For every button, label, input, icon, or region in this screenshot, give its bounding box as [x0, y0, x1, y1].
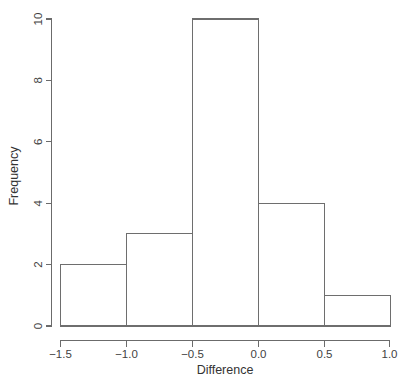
x-axis-tick-label--0.5: −0.5 [181, 348, 204, 360]
x-axis-tick-label-0.5: 0.5 [317, 348, 333, 360]
x-axis-tick-label-0.0: 0.0 [251, 348, 267, 360]
x-axis-title: Difference [197, 363, 254, 377]
y-axis-tick-label-8: 8 [32, 77, 44, 83]
histogram-bar [61, 265, 127, 326]
x-axis-tick-label--1.5: −1.5 [49, 348, 72, 360]
histogram-bar [193, 19, 259, 326]
histogram-bar [127, 234, 193, 326]
histogram-chart: 0 2 4 6 8 10 Frequency −1.5 −1.0 −0.5 0.… [0, 0, 411, 382]
x-axis-tick-label-1.0: 1.0 [382, 348, 398, 360]
y-axis-tick-label-10: 10 [32, 13, 44, 26]
y-axis-tick-label-0: 0 [32, 323, 44, 329]
x-axis-tick-label--1.0: −1.0 [115, 348, 138, 360]
y-axis-title: Frequency [7, 146, 21, 206]
histogram-bar [259, 203, 325, 326]
y-axis-tick-label-4: 4 [32, 199, 44, 206]
histogram-bar [325, 295, 391, 326]
y-axis-tick-label-6: 6 [32, 139, 44, 145]
chart-canvas: 0 2 4 6 8 10 Frequency −1.5 −1.0 −0.5 0.… [0, 0, 411, 382]
y-axis-tick-label-2: 2 [32, 261, 44, 267]
